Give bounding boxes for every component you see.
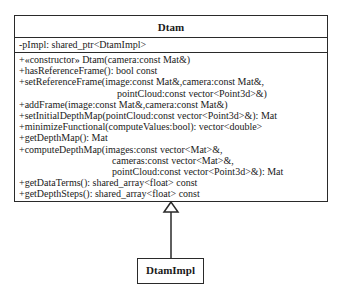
- class-name: DtamImpl: [138, 259, 203, 282]
- class-dtamimpl: DtamImpl: [137, 258, 204, 284]
- generalization-arrow: [0, 0, 346, 295]
- hollow-triangle-icon: [164, 202, 178, 212]
